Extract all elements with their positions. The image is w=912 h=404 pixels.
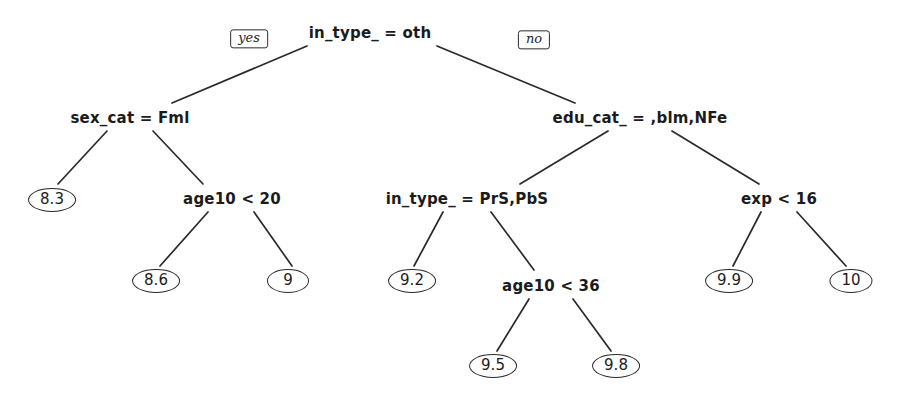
branch-tag-no: no: [518, 30, 550, 49]
branch-tag-yes: yes: [230, 29, 268, 48]
tree-edge-n0-n2: [437, 46, 575, 103]
tree-edge-n5-n10: [491, 212, 534, 270]
leaf-node-n13: 9.5: [469, 354, 517, 378]
tree-edge-n6-n11: [733, 212, 761, 266]
tree-edge-n1-n3: [58, 131, 107, 184]
leaf-node-n3: 8.3: [28, 188, 76, 212]
leaf-node-n8: 9: [267, 269, 309, 293]
split-node-n2: edu_cat_ = ,blm,NFe: [553, 109, 728, 127]
split-node-n10: age10 < 36: [502, 277, 600, 295]
tree-edge-n0-n1: [172, 46, 307, 103]
split-node-n5: in_type_ = PrS,PbS: [386, 190, 549, 208]
leaf-node-n14: 9.8: [592, 354, 640, 378]
tree-edge-n10-n13: [497, 299, 529, 351]
tree-edge-n4-n8: [254, 212, 292, 266]
split-node-n1: sex_cat = Fml: [70, 109, 189, 127]
leaf-node-n11: 9.9: [705, 269, 753, 293]
tree-edge-n1-n4: [153, 131, 203, 184]
tree-edge-n5-n9: [414, 212, 443, 266]
split-node-n4: age10 < 20: [183, 190, 281, 208]
split-node-n0: in_type_ = oth: [309, 24, 432, 42]
tree-edge-n2-n6: [672, 131, 759, 184]
tree-edge-n6-n12: [797, 212, 846, 266]
split-node-n6: exp < 16: [741, 190, 817, 208]
decision-tree-diagram: in_type_ = othsex_cat = Fmledu_cat_ = ,b…: [0, 0, 912, 404]
leaf-node-n7: 8.6: [132, 269, 180, 293]
tree-edge-n2-n5: [520, 131, 608, 184]
tree-edge-n4-n7: [160, 212, 208, 266]
tree-edge-n10-n14: [573, 299, 611, 351]
leaf-node-n9: 9.2: [388, 269, 436, 293]
